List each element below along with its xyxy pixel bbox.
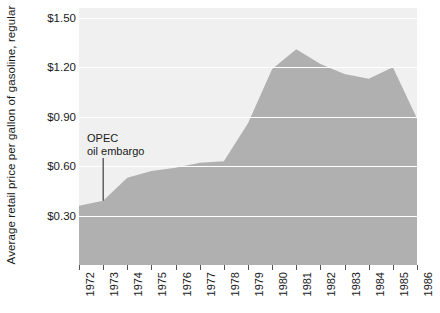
x-axis-tick-mark <box>151 265 152 270</box>
x-axis-tick-label: 1972 <box>84 272 96 296</box>
x-axis-tick-label: 1974 <box>132 272 144 296</box>
x-axis-tick-label: 1983 <box>350 272 362 296</box>
y-axis-tick-label: $0.60 <box>30 160 76 172</box>
x-axis-tick-label: 1978 <box>229 272 241 296</box>
chart-figure: Average retail price per gallon of gasol… <box>0 0 440 313</box>
y-axis-tick-label: $0.90 <box>30 111 76 123</box>
x-axis-tick-mark <box>224 265 225 270</box>
x-axis-tick-label: 1980 <box>277 272 289 296</box>
x-axis-tick-mark <box>200 265 201 270</box>
annotation-line-2: oil embargo <box>87 145 144 158</box>
y-axis-title-container: Average retail price per gallon of gasol… <box>0 0 22 270</box>
x-axis-tick-mark <box>369 265 370 270</box>
x-axis-tick-mark <box>345 265 346 270</box>
gridline <box>79 18 417 19</box>
y-axis-tick-label: $1.20 <box>30 61 76 73</box>
x-axis-tick-label: 1981 <box>301 272 313 296</box>
gridline <box>79 67 417 68</box>
x-axis-tick-mark <box>296 265 297 270</box>
x-axis-tick-label: 1976 <box>181 272 193 296</box>
x-axis-tick-mark <box>127 265 128 270</box>
x-axis-tick-label: 1982 <box>325 272 337 296</box>
x-axis-tick-label: 1979 <box>253 272 265 296</box>
x-axis-tick-mark <box>320 265 321 270</box>
x-axis-tick-labels: 1972197319741975197619771978197919801981… <box>79 265 417 313</box>
x-axis-tick-mark <box>176 265 177 270</box>
x-axis-tick-mark <box>393 265 394 270</box>
annotation-opec-oil-embargo: OPEC oil embargo <box>87 132 144 157</box>
gridline <box>79 216 417 217</box>
x-axis-tick-mark <box>248 265 249 270</box>
x-axis-tick-label: 1977 <box>205 272 217 296</box>
y-axis-tick-label: $1.50 <box>30 12 76 24</box>
x-axis-tick-mark <box>103 265 104 270</box>
gridline <box>79 166 417 167</box>
x-axis-tick-label: 1975 <box>156 272 168 296</box>
y-axis-title: Average retail price per gallon of gasol… <box>5 6 17 265</box>
y-axis-tick-label: $0.30 <box>30 210 76 222</box>
x-axis-tick-label: 1986 <box>422 272 434 296</box>
annotation-line-1: OPEC <box>87 132 144 145</box>
x-axis-tick-mark <box>417 265 418 270</box>
x-axis-tick-label: 1973 <box>108 272 120 296</box>
x-axis-tick-label: 1984 <box>374 272 386 296</box>
x-axis-tick-mark <box>79 265 80 270</box>
x-axis-tick-label: 1985 <box>398 272 410 296</box>
x-axis-tick-mark <box>272 265 273 270</box>
gridline <box>79 117 417 118</box>
y-axis-tick-labels: $1.50$1.20$0.90$0.60$0.30 <box>28 0 76 313</box>
